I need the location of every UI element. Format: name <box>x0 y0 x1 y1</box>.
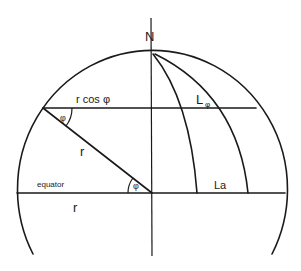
equator-label: equator <box>37 180 64 189</box>
meridian-1 <box>153 54 197 193</box>
phi-top-label: φ <box>60 113 66 123</box>
r-equator-label: r <box>73 200 78 215</box>
meridian-2 <box>155 54 248 193</box>
l-a-label: La <box>214 179 227 191</box>
l-phi-label: L <box>196 92 203 107</box>
l-phi-subscript: φ <box>205 100 210 109</box>
r-slant-label: r <box>80 144 85 159</box>
polar-axis <box>151 18 152 256</box>
r-cos-phi-label: r cos φ <box>76 93 110 105</box>
sphere-latitude-diagram: N r cos φ φ r φ equator r L φ La <box>0 0 301 271</box>
phi-bottom-label: φ <box>133 181 139 191</box>
angle-arc-top <box>66 108 72 126</box>
north-label: N <box>145 29 154 44</box>
sphere-outline <box>17 50 287 254</box>
